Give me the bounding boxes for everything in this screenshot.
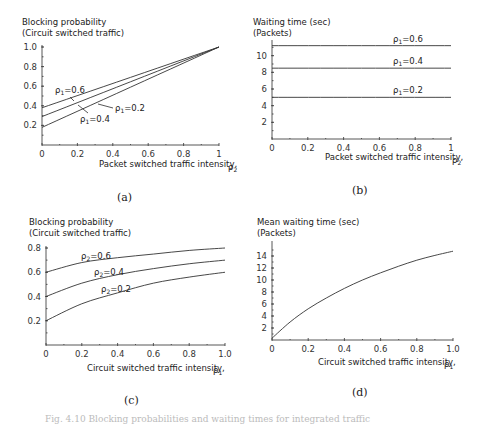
x-tick-label: 0.4 (106, 149, 120, 159)
chart-b-annotation-0.2: ρ1=0.2 (393, 85, 423, 96)
chart-a-ylabel-2: (Circuit switched traffic) (22, 28, 124, 38)
chart-d-ylabel-2: (Packets) (257, 228, 296, 238)
x-tick-label: 1.0 (446, 344, 460, 354)
x-tick-label: 1.0 (218, 349, 232, 359)
chart-c-annotation-0.4: ρ2=0.4 (94, 267, 124, 278)
x-tick-label: 0.2 (75, 349, 89, 359)
y-tick-label: 8 (262, 287, 267, 297)
y-tick-label: 0.8 (27, 243, 41, 253)
x-tick-label: 0.8 (182, 349, 196, 359)
chart-b: Waiting time (sec) (Packets) 00.20.40.60… (253, 17, 463, 197)
chart-b-axes: 00.20.40.60.81246810 (256, 40, 454, 153)
figure-canvas: Blocking probability (Circuit switched t… (0, 0, 487, 425)
chart-c-plot (46, 248, 225, 321)
y-tick-label: 6 (262, 84, 267, 94)
chart-c-ylabel-2: (Circuit switched traffic) (29, 228, 131, 238)
chart-d-plot (272, 251, 453, 338)
chart-a-annotation-0.4: ρ1=0.4 (80, 114, 110, 125)
y-tick-label: 2 (262, 117, 267, 127)
y-tick-label: 6 (262, 299, 267, 309)
chart-d-xlabel: Circuit switched traffic intensity, (318, 357, 456, 367)
series-line (46, 260, 225, 296)
x-tick-label: 0.4 (338, 344, 352, 354)
chart-a-panel-label: (a) (117, 191, 132, 204)
chart-a: Blocking probability (Circuit switched t… (22, 17, 237, 204)
chart-c-annotation-0.6: ρ2=0.6 (81, 251, 111, 262)
chart-d-ylabel-1: Mean waiting time (sec) (257, 217, 359, 227)
y-tick-label: 4 (262, 101, 267, 111)
y-tick-label: 0.4 (27, 292, 41, 302)
x-tick-label: 0 (269, 344, 274, 354)
series-line (42, 47, 219, 108)
chart-d-panel-label: (d) (352, 386, 368, 399)
chart-b-annotation-0.6: ρ1=0.6 (393, 34, 423, 45)
chart-d: Mean waiting time (sec) (Packets) 00.20.… (256, 217, 460, 399)
chart-b-ylabel-1: Waiting time (sec) (253, 17, 330, 27)
figure-caption: Fig. 4.10 Blocking probabilities and wai… (45, 414, 370, 424)
chart-c-xlabel: Circuit switched traffic intensity, (87, 363, 225, 373)
y-tick-label: 12 (256, 263, 267, 273)
chart-b-xlabel: Packet switched traffic intensity, (325, 152, 463, 162)
y-tick-label: 0.2 (23, 120, 37, 130)
chart-a-xlabel: Packet switched traffic intensity, (99, 159, 237, 169)
series-line (272, 251, 453, 338)
y-tick-label: 10 (256, 51, 267, 61)
chart-c-axes: 00.20.40.60.81.00.20.40.60.8 (27, 243, 231, 359)
x-tick-label: 0 (39, 149, 44, 159)
y-tick-label: 0.6 (27, 267, 41, 277)
chart-b-panel-label: (b) (352, 184, 368, 197)
y-tick-label: 1.0 (23, 42, 37, 52)
y-tick-label: 0.8 (23, 62, 37, 72)
y-tick-label: 0.4 (23, 101, 37, 111)
x-tick-label: 0 (269, 143, 274, 153)
chart-b-annotation-0.4: ρ1=0.4 (393, 56, 423, 67)
x-tick-label: 0.8 (410, 344, 424, 354)
x-tick-label: 1 (216, 149, 221, 159)
y-tick-label: 10 (256, 275, 267, 285)
y-tick-label: 2 (262, 323, 267, 333)
chart-c-panel-label: (c) (124, 394, 139, 407)
chart-c-ylabel-1: Blocking probability (29, 217, 113, 227)
x-tick-label: 0.8 (177, 149, 191, 159)
x-tick-label: 0.4 (111, 349, 125, 359)
chart-b-plot (272, 46, 451, 98)
series-line (46, 272, 225, 321)
chart-a-ylabel-1: Blocking probability (22, 17, 106, 27)
chart-b-ylabel-2: (Packets) (253, 28, 292, 38)
x-tick-label: 0.6 (141, 149, 155, 159)
y-tick-label: 14 (256, 251, 267, 261)
chart-a-leader-0.4 (78, 105, 88, 113)
y-tick-label: 0.6 (23, 81, 37, 91)
x-tick-label: 0.2 (301, 143, 315, 153)
y-tick-label: 0.2 (27, 316, 41, 326)
x-tick-label: 0.2 (301, 344, 315, 354)
x-tick-label: 0.6 (374, 344, 388, 354)
x-tick-label: 0.2 (71, 149, 85, 159)
x-tick-label: 0.6 (147, 349, 161, 359)
y-tick-label: 8 (262, 67, 267, 77)
chart-a-leader-0.2 (98, 104, 113, 108)
chart-a-annotation-0.6: ρ1=0.6 (55, 85, 85, 96)
chart-d-axes: 00.20.40.60.81.02468101214 (256, 241, 460, 354)
chart-a-annotation-0.2: ρ1=0.2 (115, 103, 145, 114)
y-tick-label: 4 (262, 311, 267, 321)
x-tick-label: 0 (43, 349, 48, 359)
chart-c-annotation-0.2: ρ2=0.2 (101, 284, 131, 295)
series-line (46, 248, 225, 272)
chart-c: Blocking probability (Circuit switched t… (27, 217, 231, 407)
